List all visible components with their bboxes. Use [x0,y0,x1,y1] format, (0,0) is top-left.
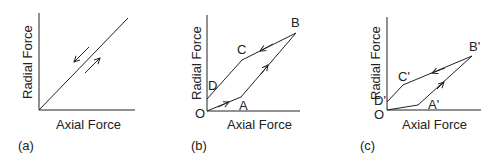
panel-c-arrow-ab-icon [437,82,444,89]
panel-c-x-axis-label: Axial Force [402,118,467,131]
panel-a-caption: (a) [18,139,34,152]
panel-b-arrow-ab-icon [261,65,268,74]
panel-c-point-o: O [374,108,384,121]
panel-c-point-b-prime: B' [469,40,480,53]
panel-c-point-a-prime: A' [428,98,439,111]
panel-a-unload-arrow-icon [74,47,89,62]
panel-a-plot [39,13,135,110]
panel-b-x-axis-label: Axial Force [227,118,292,131]
panel-b-arrow-bc-icon [260,44,273,51]
panel-c-point-d-prime: D' [374,94,386,107]
panel-c-y-axis-label: Radial Force [369,26,382,100]
panel-b-arrow-oa-icon [218,102,229,107]
panel-b-point-d: D [208,79,217,92]
panel-b-point-b: B [291,16,300,29]
panel-b-caption: (b) [191,139,207,152]
panel-a-y-axis-label: Radial Force [21,25,34,99]
panel-b-force-path [207,33,296,111]
panel-c-arrow-bc-icon [432,68,445,73]
force-path-diagrams [0,0,497,158]
panel-a-load-line [39,18,128,110]
panel-a-x-axis-label: Axial Force [56,118,121,131]
panel-b-y-axis-label: Radial Force [190,26,203,100]
panel-b-point-a: A [239,99,248,112]
panel-b-point-c: C [237,43,246,56]
panel-c-point-c-prime: C' [398,70,410,83]
panel-b-plot [207,15,300,111]
panel-b-point-o: O [195,107,205,120]
panel-c-caption: (c) [360,139,375,152]
